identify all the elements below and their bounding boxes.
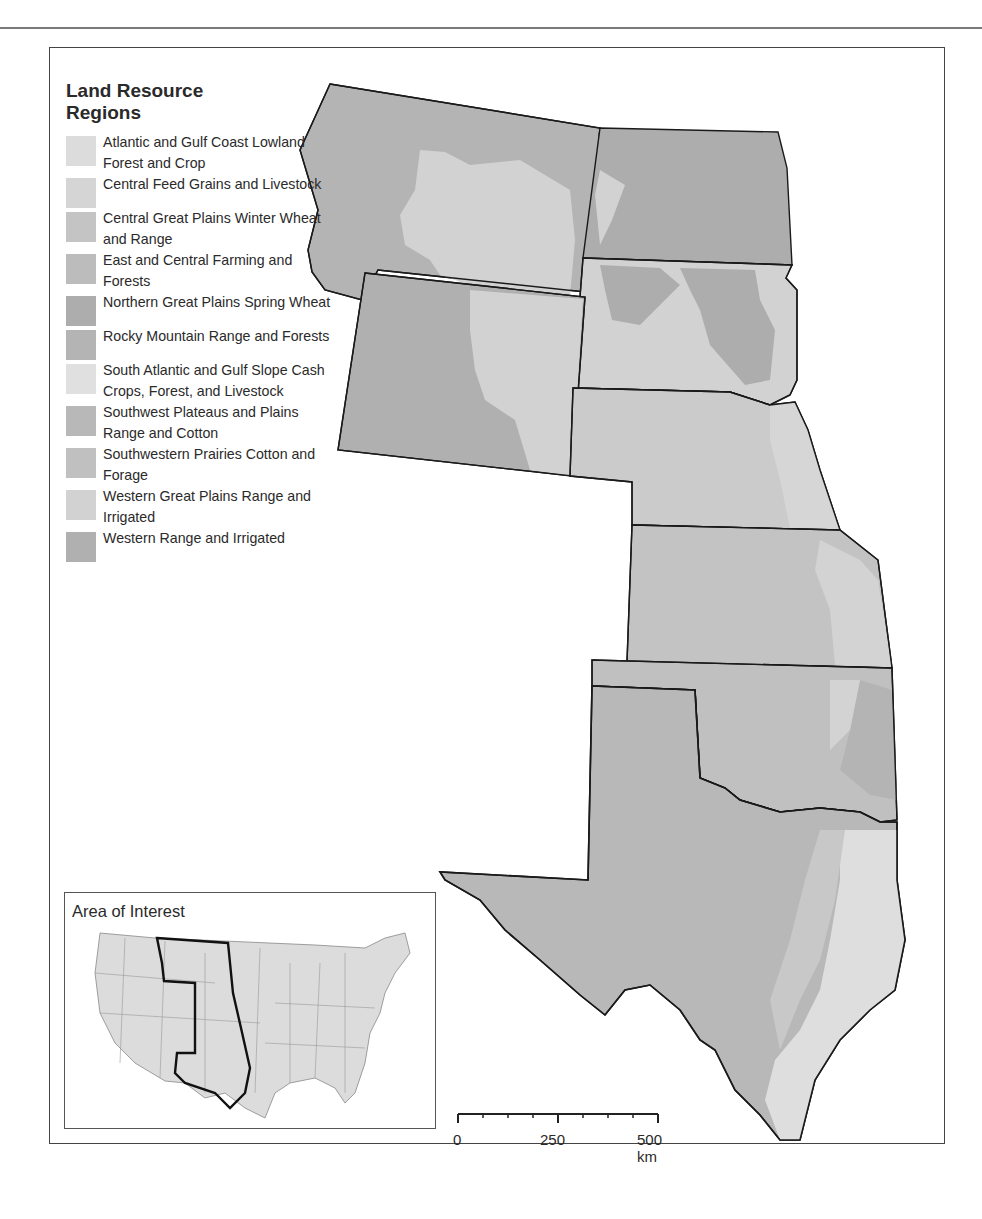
- state-north-dakota: [583, 128, 792, 265]
- legend-item: Northern Great Plains Spring Wheat: [66, 292, 346, 326]
- legend-swatch: [66, 178, 96, 208]
- scale-bar: 0 250 500 km: [452, 1088, 682, 1138]
- legend-label: Rocky Mountain Range and Forests: [103, 326, 343, 347]
- legend-label: Central Great Plains Winter Wheat and Ra…: [103, 208, 343, 250]
- legend-swatch: [66, 136, 96, 166]
- legend-label: Atlantic and Gulf Coast Lowland Forest a…: [103, 132, 343, 174]
- legend-label: East and Central Farming and Forests: [103, 250, 343, 292]
- state-nebraska: [570, 388, 840, 530]
- legend-item: East and Central Farming and Forests: [66, 250, 346, 292]
- legend-label: Western Great Plains Range and Irrigated: [103, 486, 343, 528]
- legend-label: South Atlantic and Gulf Slope Cash Crops…: [103, 360, 343, 402]
- legend-swatch: [66, 296, 96, 326]
- legend-title: Land Resource Regions: [66, 80, 346, 124]
- state-south-dakota: [573, 258, 797, 405]
- legend-item: Central Feed Grains and Livestock: [66, 174, 346, 208]
- legend-swatch: [66, 448, 96, 478]
- state-wyoming: [338, 273, 585, 476]
- legend-item: Western Great Plains Range and Irrigated: [66, 486, 346, 528]
- legend-swatch: [66, 406, 96, 436]
- inset-map: Area of Interest: [64, 892, 436, 1129]
- legend-item: Atlantic and Gulf Coast Lowland Forest a…: [66, 132, 346, 174]
- legend-swatch: [66, 212, 96, 242]
- legend-label: Central Feed Grains and Livestock: [103, 174, 343, 195]
- legend-item: Southwest Plateaus and Plains Range and …: [66, 402, 346, 444]
- legend-swatch: [66, 532, 96, 562]
- legend-swatch: [66, 490, 96, 520]
- legend-item: South Atlantic and Gulf Slope Cash Crops…: [66, 360, 346, 402]
- scale-label-250: 250: [540, 1131, 565, 1148]
- scale-bar-graphic: [452, 1088, 682, 1128]
- legend-swatch: [66, 364, 96, 394]
- legend-item: Southwestern Prairies Cotton and Forage: [66, 444, 346, 486]
- scale-label-500: 500 km: [637, 1131, 682, 1165]
- legend-swatch: [66, 330, 96, 360]
- legend-item: Central Great Plains Winter Wheat and Ra…: [66, 208, 346, 250]
- legend-label: Southwestern Prairies Cotton and Forage: [103, 444, 343, 486]
- legend-label: Southwest Plateaus and Plains Range and …: [103, 402, 343, 444]
- legend-item: Western Range and Irrigated: [66, 528, 346, 562]
- scale-label-0: 0: [453, 1131, 461, 1148]
- legend-items: Atlantic and Gulf Coast Lowland Forest a…: [66, 132, 346, 562]
- legend-item: Rocky Mountain Range and Forests: [66, 326, 346, 360]
- legend-label: Northern Great Plains Spring Wheat: [103, 292, 343, 313]
- legend-swatch: [66, 254, 96, 284]
- us-overview-map: [65, 893, 437, 1130]
- legend: Land Resource Regions Atlantic and Gulf …: [66, 80, 346, 562]
- state-kansas: [627, 525, 892, 668]
- legend-label: Western Range and Irrigated: [103, 528, 343, 549]
